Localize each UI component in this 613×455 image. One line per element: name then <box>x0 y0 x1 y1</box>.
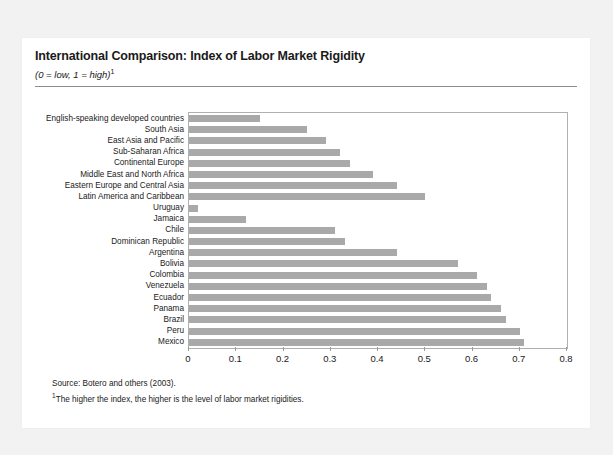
category-label: Continental Europe <box>114 158 184 168</box>
bar <box>189 115 260 122</box>
bar <box>189 249 397 256</box>
bar-row: Brazil <box>189 314 567 325</box>
x-tick-label: 0.6 <box>465 353 478 364</box>
bar-row: Eastern Europe and Central Asia <box>189 180 567 191</box>
category-label: Dominican Republic <box>111 237 184 247</box>
x-tick-label: 0.4 <box>370 353 383 364</box>
bar <box>189 216 246 223</box>
bar <box>189 305 501 312</box>
x-tick-label: 0.7 <box>512 353 525 364</box>
figure-panel: International Comparison: Index of Labor… <box>22 38 590 428</box>
footnote: 1The higher the index, the higher is the… <box>52 390 562 406</box>
bar-row: Argentina <box>189 247 567 258</box>
category-label: Ecuador <box>154 293 185 303</box>
bar <box>189 193 425 200</box>
bar-row: Colombia <box>189 270 567 281</box>
chart-plot-area: English-speaking developed countriesSout… <box>188 112 568 349</box>
bar <box>189 238 345 245</box>
category-label: Uruguay <box>153 203 184 213</box>
category-label: Mexico <box>158 337 184 347</box>
bar-row: Panama <box>189 303 567 314</box>
subtitle-footnote-marker: 1 <box>111 68 115 75</box>
footnote-text: The higher the index, the higher is the … <box>56 395 304 404</box>
bar <box>189 205 198 212</box>
bar-row: English-speaking developed countries <box>189 113 567 124</box>
bar-row: Chile <box>189 225 567 236</box>
bar <box>189 171 373 178</box>
category-label: Panama <box>154 304 185 314</box>
category-label: Middle East and North Africa <box>80 170 184 180</box>
bar-row: Mexico <box>189 337 567 348</box>
category-label: Venezuela <box>146 281 184 291</box>
category-label: Eastern Europe and Central Asia <box>65 181 184 191</box>
figure-page: International Comparison: Index of Labor… <box>0 0 613 455</box>
bar <box>189 260 458 267</box>
x-tick-label: 0.8 <box>559 353 572 364</box>
bar-row: Middle East and North Africa <box>189 169 567 180</box>
bar-row: East Asia and Pacific <box>189 135 567 146</box>
category-label: Jamaica <box>154 214 185 224</box>
bar-row: Sub-Saharan Africa <box>189 147 567 158</box>
x-tick-label: 0.5 <box>418 353 431 364</box>
bar <box>189 272 477 279</box>
bar-row: Peru <box>189 326 567 337</box>
chart-subtitle: (0 = low, 1 = high)1 <box>35 65 577 81</box>
bar <box>189 137 326 144</box>
category-label: Colombia <box>149 270 184 280</box>
category-label: Chile <box>165 225 184 235</box>
category-label: Brazil <box>164 315 184 325</box>
x-tick-label: 0 <box>185 353 190 364</box>
bar <box>189 160 350 167</box>
x-tick-label: 0.3 <box>323 353 336 364</box>
bar-row: Latin America and Caribbean <box>189 191 567 202</box>
bar-row: Dominican Republic <box>189 236 567 247</box>
category-label: Peru <box>167 326 184 336</box>
category-label: South Asia <box>145 125 184 135</box>
category-label: Latin America and Caribbean <box>78 192 184 202</box>
bar <box>189 316 506 323</box>
figure-header: International Comparison: Index of Labor… <box>35 49 577 81</box>
bar <box>189 227 335 234</box>
category-label: Argentina <box>149 248 184 258</box>
bar <box>189 149 340 156</box>
x-tick-label: 0.2 <box>276 353 289 364</box>
category-label: Bolivia <box>160 259 184 269</box>
bar <box>189 339 524 346</box>
chart-subtitle-text: (0 = low, 1 = high) <box>35 69 111 80</box>
figure-footer: Source: Botero and others (2003). 1The h… <box>52 378 562 406</box>
bar-row: South Asia <box>189 124 567 135</box>
bar-row: Venezuela <box>189 281 567 292</box>
category-label: East Asia and Pacific <box>108 136 184 146</box>
bar-row: Ecuador <box>189 292 567 303</box>
bar <box>189 126 307 133</box>
x-tick-label: 0.1 <box>229 353 242 364</box>
bar-row: Bolivia <box>189 258 567 269</box>
page-title: International Comparison: Index of Labor… <box>35 49 577 64</box>
category-label: English-speaking developed countries <box>46 114 184 124</box>
header-divider <box>35 86 577 87</box>
category-label: Sub-Saharan Africa <box>113 147 184 157</box>
bar-row: Continental Europe <box>189 158 567 169</box>
bar <box>189 283 487 290</box>
bar <box>189 328 520 335</box>
bar <box>189 182 397 189</box>
source-note: Source: Botero and others (2003). <box>52 378 562 390</box>
bar-row: Jamaica <box>189 214 567 225</box>
bar <box>189 294 491 301</box>
bar-row: Uruguay <box>189 203 567 214</box>
